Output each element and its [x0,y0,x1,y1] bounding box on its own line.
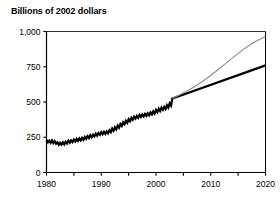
x-tick-label: 1990 [92,179,111,189]
series-line-2 [172,36,265,98]
y-tick-label: 500 [26,97,40,107]
x-tick-label: 2020 [256,179,275,189]
x-tick-label: 1980 [37,179,56,189]
x-tick-label: 2010 [201,179,220,189]
chart-plot: 02505007501,000 19801990200020102020 [0,0,280,205]
chart-container: Billions of 2002 dollars 02505007501,000… [0,0,280,205]
y-axis-tick-labels: 02505007501,000 [19,27,41,178]
series-line-0 [47,98,173,145]
y-tick-label: 750 [26,62,40,72]
series-line-1 [172,65,265,98]
chart-series-group [47,36,266,144]
chart-axes [47,32,266,173]
y-tick-label: 1,000 [19,27,41,37]
y-tick-label: 0 [36,168,41,178]
y-tick-label: 250 [26,132,40,142]
x-tick-label: 2000 [147,179,166,189]
chart-tick-marks [43,32,265,176]
x-axis-tick-labels: 19801990200020102020 [37,179,275,189]
